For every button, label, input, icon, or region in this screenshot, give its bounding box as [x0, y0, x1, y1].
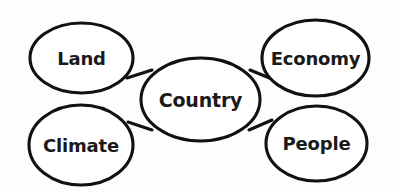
node-land-label: Land	[57, 48, 106, 69]
concept-map-canvas: Land Climate Economy People Country	[0, 0, 393, 192]
concept-map-diagram: Land Climate Economy People Country	[0, 0, 393, 192]
node-people[interactable]: People	[266, 106, 367, 181]
node-climate-label: Climate	[43, 135, 119, 156]
node-economy-label: Economy	[271, 48, 361, 69]
connector-climate-country	[128, 122, 152, 130]
node-country[interactable]: Country	[141, 58, 260, 141]
node-economy[interactable]: Economy	[262, 20, 369, 96]
node-country-label: Country	[159, 89, 243, 111]
node-climate[interactable]: Climate	[29, 105, 133, 185]
node-land[interactable]: Land	[30, 23, 133, 93]
node-people-label: People	[283, 133, 351, 154]
